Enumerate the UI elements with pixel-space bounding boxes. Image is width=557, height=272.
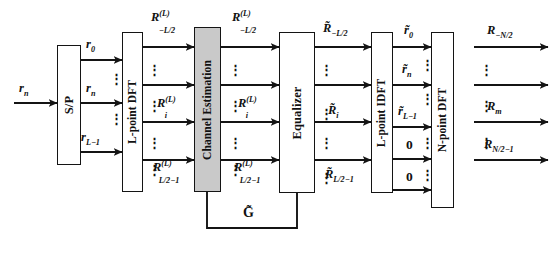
dots-dft-4: ⋮ [148,163,161,176]
block-equalizer-label: Equalizer [291,86,304,139]
label-sp-rn-sub: n [91,89,96,98]
dots-sp-1: ⋮ [110,72,123,85]
label-dft-out-2-sub: i [165,111,167,120]
label-final-out-1-sub: −N/2 [495,31,512,40]
dots-eq-2: ⋮ [320,107,333,120]
dots-eq-3: ⋮ [320,136,333,149]
dots-final-3: ⋮ [480,136,493,149]
dots-chest-1: ⋮ [229,63,242,76]
dots-chest-3: ⋮ [229,136,242,149]
block-l-point-dft: L-point DFT [122,32,143,192]
label-idft-out-1-sub: 0 [409,31,413,40]
block-channel-estimation-label: Channel Estimation [202,60,214,160]
block-equalizer: Equalizer [279,32,315,193]
label-idft-out-3: r̃L−1 [398,105,417,121]
block-n-point-dft: N-point DFT [431,32,454,208]
dots-dft-3: ⋮ [148,136,161,149]
label-chest-out-2-sup: (L) [246,95,256,104]
dots-idft-3: ⋮ [421,136,434,149]
label-sp-r0-sub: 0 [91,45,95,54]
dots-chest-4: ⋮ [229,163,242,176]
label-idft-out-2-sub: n [407,70,412,79]
block-channel-estimation: Channel Estimation [194,27,221,192]
label-input-rn: rn [19,82,28,98]
label-dft-out-3-sup: (L) [161,159,171,168]
dots-idft-2: ⋮ [421,92,434,105]
label-dft-out-1-sub: −L/2 [159,26,175,35]
dots-eq-1: ⋮ [320,63,333,76]
dots-final-1: ⋮ [480,63,493,76]
label-feedback-gtilde: G̃ [243,206,254,220]
dots-sp-2: ⋮ [110,112,123,125]
block-l-point-idft-label: L-point IDFT [376,78,388,147]
label-final-out-2-sub: m [495,107,501,116]
block-diagram-canvas: S/P L-point DFT Channel Estimation Equal… [0,0,557,272]
label-eq-out-1-sub: −L/2 [331,29,347,38]
label-final-out-3-sub: N/2−1 [492,145,513,154]
label-sp-rL1: rL−1 [81,131,100,147]
label-dft-out-2-sup: (L) [165,95,175,104]
label-eq-out-2-sub: i [336,111,338,120]
dots-dft-2: ⋮ [148,99,161,112]
label-chest-out-3-sub: L/2−1 [240,176,260,185]
label-chest-out-1-sub: −L/2 [240,26,256,35]
label-zero-pad-2: 0 [406,170,413,184]
label-eq-out-1: R̃−L/2 [323,22,348,38]
label-sp-rn: rn [86,82,95,98]
block-n-point-dft-label: N-point DFT [437,88,449,153]
dots-chest-2: ⋮ [229,99,242,112]
label-sp-rL1-sub: L−1 [86,138,100,147]
label-dft-out-3-sub: L/2−1 [159,176,179,185]
block-sp: S/P [57,45,81,165]
block-l-point-idft: L-point IDFT [371,32,393,193]
dots-dft-1: ⋮ [148,63,161,76]
label-zero-pad-1: 0 [406,138,413,152]
dots-idft-1: ⋮ [421,58,434,71]
label-idft-out-2: r̃n [402,63,411,79]
dots-final-2: ⋮ [480,99,493,112]
label-eq-out-3-sub: L/2−1 [333,175,353,184]
label-dft-out-1: R(L)−L/2 [151,10,175,27]
label-sp-r0: r0 [86,38,95,54]
label-chest-out-1: R(L)−L/2 [232,10,256,27]
label-idft-out-3-sub: L−1 [403,112,417,121]
dots-idft-4: ⋮ [421,168,434,181]
block-sp-label: S/P [63,96,76,114]
label-chest-out-3-sup: (L) [242,159,252,168]
label-final-out-1: R−N/2 [487,24,513,40]
label-input-rn-sub: n [24,89,29,98]
label-chest-out-2-sub: i [246,111,248,120]
dots-eq-4: ⋮ [320,171,333,184]
label-idft-out-1: r̃0 [404,24,413,40]
block-l-point-dft-label: L-point DFT [127,80,139,144]
label-dft-out-1-sup: (L) [159,9,169,18]
label-chest-out-1-sup: (L) [240,9,250,18]
